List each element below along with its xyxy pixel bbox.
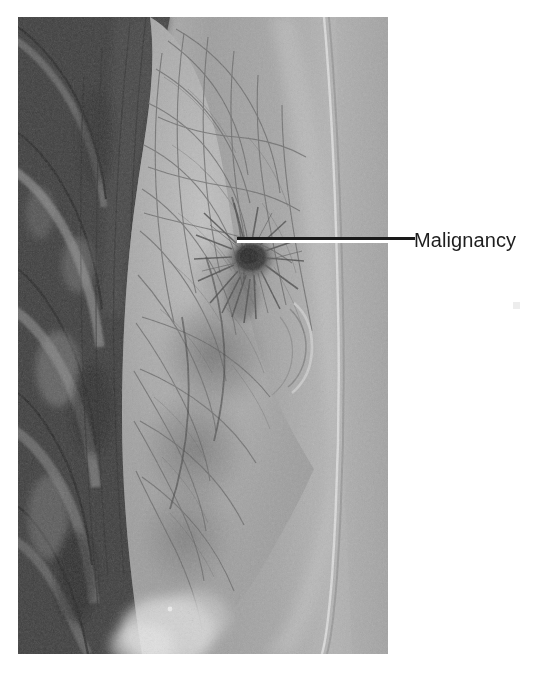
malignancy-label: Malignancy bbox=[414, 228, 516, 252]
figure-root: Malignancy bbox=[0, 0, 535, 675]
radiograph-canvas bbox=[18, 17, 388, 654]
mammogram-radiograph bbox=[18, 17, 388, 654]
film-grain-fine bbox=[18, 17, 388, 654]
scan-artifact-speck bbox=[513, 302, 520, 309]
